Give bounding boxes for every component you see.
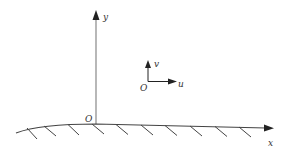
inset-origin-label: O	[140, 83, 148, 93]
wall-hatching	[27, 124, 251, 139]
velocity-inset	[145, 60, 177, 85]
origin-label: O	[85, 114, 93, 124]
v-label: v	[154, 59, 159, 69]
y-axis	[93, 10, 100, 124]
boundary-diagram: y x O v u O	[0, 0, 284, 160]
x-axis-arrow-icon	[264, 125, 274, 132]
v-arrow-icon	[145, 60, 151, 68]
x-axis-label: x	[268, 138, 273, 148]
u-label: u	[178, 79, 184, 89]
y-axis-arrow-icon	[93, 10, 100, 20]
y-axis-label: y	[102, 12, 109, 22]
u-arrow-icon	[168, 79, 177, 85]
